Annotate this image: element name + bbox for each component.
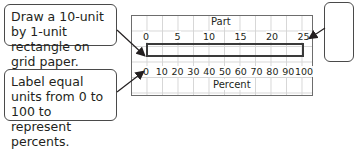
arrow-to-part-25 bbox=[310, 28, 325, 38]
arrow-to-rectangle bbox=[117, 30, 144, 55]
arrow-to-percent-zero bbox=[117, 72, 143, 92]
